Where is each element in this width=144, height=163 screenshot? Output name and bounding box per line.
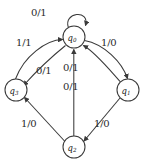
edge-label-q1-q0: 0/1 bbox=[63, 63, 79, 73]
edge-label-q0-q1: 1/0 bbox=[101, 38, 117, 48]
node-q0[interactable]: q0 bbox=[63, 26, 85, 48]
edge-label-q0-q0: 0/1 bbox=[31, 8, 47, 18]
edge-q1-q0 bbox=[84, 46, 121, 83]
node-q2[interactable]: q2 bbox=[63, 136, 85, 158]
edge-label-q2-q0: 0/1 bbox=[63, 82, 79, 92]
edge-label-q0-q3: 0/1 bbox=[36, 66, 52, 76]
edge-q0-q0 bbox=[68, 14, 86, 27]
node-q1[interactable]: q1 bbox=[117, 79, 139, 101]
edge-label-q3-q0: 1/1 bbox=[16, 38, 32, 48]
node-q3[interactable]: q3 bbox=[5, 79, 27, 101]
edge-label-q1-q2: 1/0 bbox=[94, 119, 110, 129]
edge-label-q2-q3: 1/0 bbox=[21, 119, 37, 129]
fsm-diagram: q0 q1 q2 q3 0/1 1/1 0/1 1/0 0/1 0/1 1/0 … bbox=[0, 0, 144, 163]
